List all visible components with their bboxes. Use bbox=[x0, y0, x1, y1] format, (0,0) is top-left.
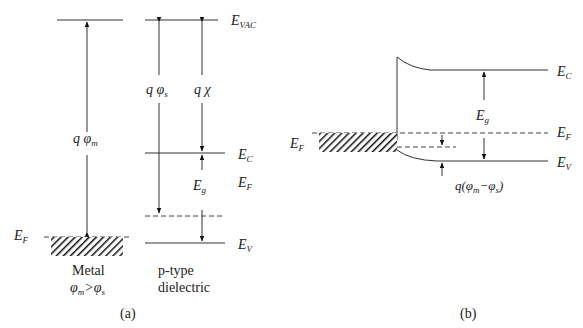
ef-right-label-b: EF bbox=[556, 125, 572, 142]
qphim-label: q φm bbox=[73, 131, 98, 148]
metal-label: Metal bbox=[72, 263, 105, 278]
metal-filled-states-hatch-b bbox=[319, 133, 397, 152]
metal-filled-states-hatch bbox=[51, 237, 123, 256]
ec-label-b: EC bbox=[556, 64, 573, 81]
valence-band-bent bbox=[397, 150, 548, 161]
dielectric-label-line1: p-type bbox=[158, 263, 194, 278]
dielectric-label-line2: dielectric bbox=[158, 280, 210, 295]
metal-condition-label: φm>φs bbox=[70, 280, 105, 297]
ev-label: EV bbox=[237, 237, 254, 254]
qchi-label: q χ bbox=[194, 82, 212, 97]
metal-ef-label-b: EF bbox=[289, 136, 305, 153]
panel-a-caption: (a) bbox=[120, 306, 136, 322]
ev-label-b: EV bbox=[556, 155, 573, 172]
panel-b-caption: (b) bbox=[460, 306, 477, 322]
band-bending-label: q(φm−φs) bbox=[455, 178, 503, 195]
ec-label: EC bbox=[237, 147, 254, 164]
eg-label-b: Eg bbox=[475, 108, 490, 125]
qphis-label: q φs bbox=[146, 82, 168, 99]
evac-label: EVAC bbox=[230, 13, 257, 30]
panel-a: EVAC q φm q φs q χ EC Eg EF EV EF Metal … bbox=[13, 13, 257, 322]
conduction-band-bent bbox=[397, 57, 548, 70]
band-diagram: EVAC q φm q φs q χ EC Eg EF EV EF Metal … bbox=[0, 0, 583, 328]
eg-label: Eg bbox=[192, 178, 207, 195]
metal-ef-label: EF bbox=[13, 228, 29, 245]
ef-right-label: EF bbox=[237, 175, 253, 192]
panel-b: EC Eg EF EF EV q(φm−φs) (b) bbox=[289, 57, 573, 322]
